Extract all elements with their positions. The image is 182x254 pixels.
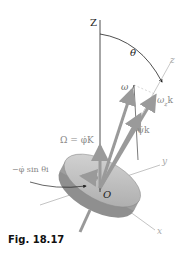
figure-caption: Fig. 18.17 bbox=[8, 234, 64, 245]
label-origin: O bbox=[103, 190, 111, 200]
label-y: y bbox=[162, 157, 167, 166]
label-omega-z-k: ωzk bbox=[157, 96, 173, 107]
label-Omega-eq: Ω = φ̇K bbox=[60, 136, 94, 145]
minus-phi-sin-vector bbox=[82, 176, 98, 178]
label-theta: θ bbox=[130, 48, 136, 58]
label-psi-dot-k: ψ̇k bbox=[137, 126, 150, 135]
label-z: z bbox=[170, 56, 175, 65]
gyroscope-diagram bbox=[0, 0, 182, 254]
shaft bbox=[80, 210, 90, 232]
label-x: x bbox=[157, 227, 162, 236]
label-Z: Z bbox=[90, 18, 97, 28]
theta-arc bbox=[100, 34, 162, 82]
label-omega: ω bbox=[121, 83, 128, 92]
label-minus-phi-sin: −φ̇ sin θi bbox=[12, 166, 49, 174]
